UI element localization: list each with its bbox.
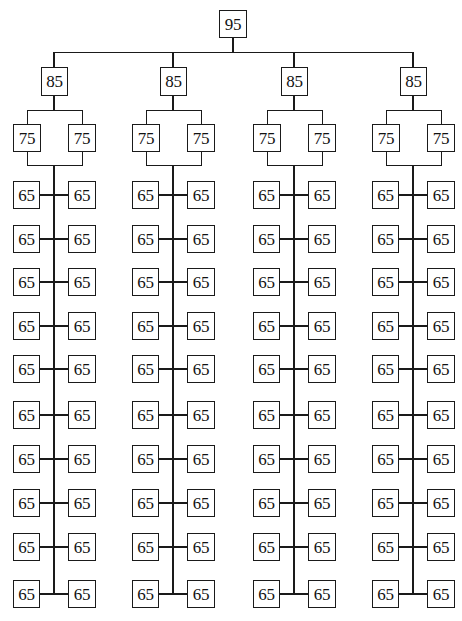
leaf-node-left: 65 (372, 268, 399, 296)
leaf-node-right: 65 (427, 181, 455, 209)
leaf-node-left-label: 65 (137, 586, 153, 603)
leaf-node-left: 65 (132, 268, 159, 296)
leaf-row-connector (40, 593, 68, 594)
leaf-row-connector (399, 546, 427, 547)
leaf-node-left: 65 (372, 445, 399, 473)
leaf-node-left: 65 (372, 580, 399, 608)
leaf-node-right-label: 65 (314, 187, 330, 204)
leaf-node-left-label: 65 (137, 231, 153, 248)
leaf-node-right: 65 (187, 489, 215, 517)
branch-3-merge-bus (386, 165, 442, 166)
leaf-node-left: 65 (132, 225, 159, 253)
leaf-node-right-label: 65 (314, 495, 330, 512)
leaf-node-right-label: 65 (74, 318, 90, 335)
leaf-node-right: 65 (187, 268, 215, 296)
leaf-node-left: 65 (132, 445, 159, 473)
leaf-row-connector (40, 414, 68, 415)
branch-3-trunk (412, 165, 413, 595)
branch-2-right-drop (322, 110, 323, 124)
leaf-row-connector (40, 325, 68, 326)
level2-node-left-label: 75 (259, 130, 275, 147)
level1-node: 85 (281, 67, 308, 96)
leaf-row-connector (280, 593, 308, 594)
branch-2-drop (293, 52, 294, 67)
leaf-node-right: 65 (68, 445, 96, 473)
branch-2-right-merge (322, 152, 323, 165)
branch-1-drop (172, 52, 173, 67)
leaf-row-connector (159, 502, 187, 503)
leaf-node-right-label: 65 (433, 451, 449, 468)
leaf-row-connector (40, 502, 68, 503)
leaf-row-connector (40, 281, 68, 282)
branch-1-left-drop (146, 110, 147, 124)
leaf-node-right-label: 65 (433, 586, 449, 603)
leaf-node-left: 65 (132, 181, 159, 209)
level1-node-label: 85 (286, 73, 302, 90)
leaf-row-connector (40, 458, 68, 459)
leaf-node-right-label: 65 (74, 274, 90, 291)
leaf-node-right: 65 (68, 580, 96, 608)
leaf-node-right-label: 65 (193, 318, 209, 335)
leaf-node-right: 65 (427, 580, 455, 608)
leaf-node-right-label: 65 (193, 495, 209, 512)
branch-3-left-drop (386, 110, 387, 124)
leaf-node-right-label: 65 (314, 586, 330, 603)
leaf-node-right: 65 (308, 268, 336, 296)
leaf-node-right: 65 (68, 268, 96, 296)
leaf-node-right-label: 65 (314, 407, 330, 424)
leaf-node-left: 65 (13, 225, 40, 253)
level2-node-right-label: 75 (433, 130, 449, 147)
leaf-node-right: 65 (187, 445, 215, 473)
level2-node-right-label: 75 (74, 130, 90, 147)
leaf-node-left: 65 (372, 181, 399, 209)
leaf-node-right-label: 65 (74, 407, 90, 424)
leaf-node-right: 65 (68, 489, 96, 517)
branch-0-right-merge (82, 152, 83, 165)
leaf-row-connector (40, 546, 68, 547)
leaf-node-left-label: 65 (258, 187, 274, 204)
level1-node: 85 (160, 67, 187, 96)
branch-0-trunk (53, 165, 54, 595)
level1-node: 85 (400, 67, 427, 96)
branch-0-merge-bus (27, 165, 83, 166)
leaf-row-connector (159, 281, 187, 282)
leaf-node-left-label: 65 (18, 539, 34, 556)
leaf-node-right: 65 (187, 312, 215, 340)
root-node-label: 95 (225, 16, 241, 33)
leaf-node-right: 65 (427, 312, 455, 340)
leaf-node-left-label: 65 (258, 274, 274, 291)
branch-0-stem (53, 96, 54, 110)
leaf-row-connector (399, 281, 427, 282)
leaf-node-right: 65 (308, 355, 336, 383)
leaf-node-left: 65 (13, 580, 40, 608)
branch-3-left-merge (386, 152, 387, 165)
leaf-node-right-label: 65 (314, 539, 330, 556)
leaf-node-right-label: 65 (193, 231, 209, 248)
leaf-node-left-label: 65 (137, 407, 153, 424)
level2-node-left: 75 (253, 124, 281, 152)
leaf-node-right: 65 (427, 268, 455, 296)
branch-0-left-merge (27, 152, 28, 165)
leaf-node-left-label: 65 (18, 274, 34, 291)
root-node: 95 (219, 10, 247, 38)
branch-3-drop (412, 52, 413, 67)
leaf-node-right-label: 65 (433, 187, 449, 204)
leaf-row-connector (280, 546, 308, 547)
level1-node-label: 85 (46, 73, 62, 90)
leaf-node-left-label: 65 (377, 451, 393, 468)
level2-node-right-label: 75 (314, 130, 330, 147)
leaf-node-left: 65 (253, 489, 280, 517)
leaf-row-connector (159, 414, 187, 415)
leaf-node-left-label: 65 (377, 274, 393, 291)
leaf-row-connector (399, 458, 427, 459)
leaf-node-left-label: 65 (18, 495, 34, 512)
branch-1-right-merge (201, 152, 202, 165)
leaf-row-connector (40, 368, 68, 369)
level1-bus (54, 52, 414, 53)
leaf-node-left: 65 (13, 489, 40, 517)
leaf-node-right: 65 (308, 181, 336, 209)
leaf-node-left-label: 65 (258, 451, 274, 468)
leaf-row-connector (399, 414, 427, 415)
leaf-node-left-label: 65 (377, 539, 393, 556)
leaf-node-right: 65 (427, 445, 455, 473)
